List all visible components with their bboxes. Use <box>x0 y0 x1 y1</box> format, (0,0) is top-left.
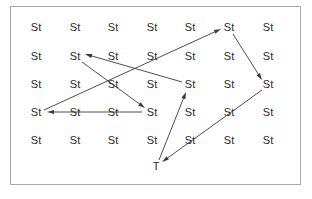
state-node-label: St <box>263 107 273 118</box>
state-node-label: St <box>147 51 157 62</box>
state-node-label: St <box>108 135 118 146</box>
state-node-label: St <box>263 51 273 62</box>
state-node-label: St <box>108 51 118 62</box>
state-node-label: St <box>224 135 234 146</box>
state-node-label: St <box>147 107 157 118</box>
state-node-label: St <box>185 107 195 118</box>
state-node-label: St <box>224 22 234 33</box>
state-node-label: St <box>147 135 157 146</box>
state-node-label: St <box>31 51 41 62</box>
diagram-screenshot: StStStStStStStStStStStStStStStStStStStSt… <box>0 0 312 199</box>
terminal-node-label: T <box>153 161 160 172</box>
state-node-label: St <box>185 51 195 62</box>
state-node-label: St <box>263 22 273 33</box>
state-node-label: St <box>224 51 234 62</box>
state-node-layer: StStStStStStStStStStStStStStStStStStStSt… <box>0 0 312 199</box>
state-node-label: St <box>31 107 41 118</box>
state-node-label: St <box>70 79 80 90</box>
state-node-label: St <box>224 107 234 118</box>
state-node-label: St <box>185 135 195 146</box>
state-node-label: St <box>147 22 157 33</box>
state-node-label: St <box>108 107 118 118</box>
state-node-label: St <box>70 107 80 118</box>
state-node-label: St <box>70 22 80 33</box>
state-node-label: St <box>263 79 273 90</box>
state-node-label: St <box>70 135 80 146</box>
state-node-label: St <box>147 79 157 90</box>
state-node-label: St <box>70 51 80 62</box>
state-node-label: St <box>108 22 118 33</box>
state-node-label: St <box>31 79 41 90</box>
state-node-label: St <box>185 79 195 90</box>
state-node-label: St <box>31 22 41 33</box>
state-node-label: St <box>108 79 118 90</box>
state-node-label: St <box>185 22 195 33</box>
state-node-label: St <box>263 135 273 146</box>
state-node-label: St <box>31 135 41 146</box>
state-node-label: St <box>224 79 234 90</box>
